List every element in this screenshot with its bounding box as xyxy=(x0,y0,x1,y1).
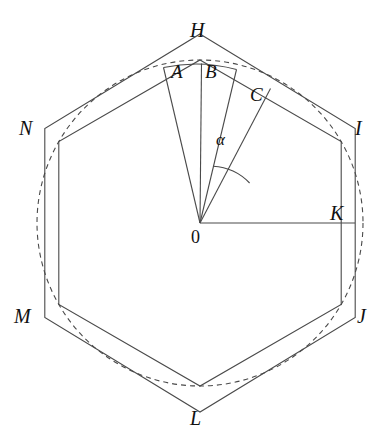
vertex-label-l: L xyxy=(190,408,201,428)
sector-label-b: B xyxy=(205,62,217,81)
sector-label-c: C xyxy=(250,85,263,104)
geometry-figure: H A B C α I K 0 J N M L xyxy=(0,0,384,440)
diagram-canvas xyxy=(0,0,384,440)
vertex-label-i: I xyxy=(355,118,362,138)
radial-line-2 xyxy=(200,64,202,224)
radial-line-1 xyxy=(164,68,201,224)
angle-alpha-arc xyxy=(213,166,249,183)
vertex-label-j: J xyxy=(357,306,366,326)
vertex-label-h: H xyxy=(190,20,204,40)
angle-alpha-label: α xyxy=(216,131,225,148)
radial-line-4 xyxy=(200,89,271,224)
vertex-label-n: N xyxy=(19,118,32,138)
center-label-o: 0 xyxy=(191,228,200,246)
vertex-label-m: M xyxy=(14,306,31,326)
sector-label-a: A xyxy=(171,62,183,81)
vertex-label-k: K xyxy=(330,203,343,223)
